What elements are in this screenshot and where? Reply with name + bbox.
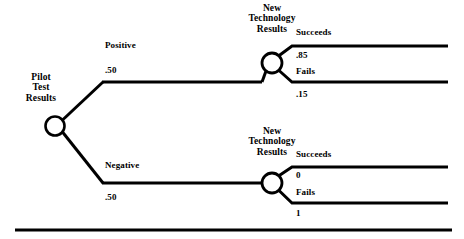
root-node-label-line-1: Pilot	[14, 72, 68, 82]
upper-branch-probability: .50	[105, 66, 117, 76]
decision-tree-figure: Pilot Test Results Positive .50 Negative…	[0, 0, 464, 239]
tree-lines-svg	[0, 0, 464, 239]
upper-branch-diagonal	[63, 82, 104, 120]
lower-succeeds-line	[279, 167, 449, 176]
lower-outcome-fails-probability: 1	[296, 209, 301, 219]
root-node-circle	[46, 117, 65, 136]
root-node-label-line-2: Test	[14, 82, 68, 92]
lower-branch-label: Negative	[105, 161, 139, 171]
lower-branch-probability: .50	[105, 193, 117, 203]
upper-chance-node-label-line-1: New	[234, 3, 310, 13]
upper-outcome-fails-probability: .15	[296, 90, 308, 100]
lower-branch-diagonal	[63, 132, 104, 183]
upper-branch-label: Positive	[105, 41, 136, 51]
upper-outcome-succeeds-probability: .85	[296, 51, 308, 61]
root-node-label: Pilot Test Results	[14, 72, 68, 103]
upper-outcome-fails-label: Fails	[296, 67, 315, 77]
lower-chance-node-label-line-2: Technology	[234, 136, 310, 146]
upper-outcome-succeeds-label: Succeeds	[296, 28, 331, 38]
lower-chance-node-label-line-1: New	[234, 126, 310, 136]
lower-outcome-fails-label: Fails	[296, 188, 315, 198]
root-node-label-line-3: Results	[14, 93, 68, 103]
lower-outcome-succeeds-label: Succeeds	[296, 150, 331, 160]
lower-outcome-succeeds-probability: 0	[296, 171, 301, 181]
upper-chance-node-label-line-2: Technology	[234, 13, 310, 23]
upper-branch-to-node-connector	[262, 71, 266, 82]
